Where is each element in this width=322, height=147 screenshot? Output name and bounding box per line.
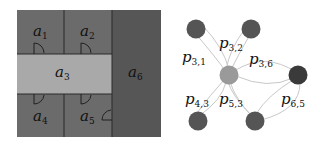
node-a6 — [289, 66, 308, 85]
label-p43: p4,3 — [185, 90, 209, 109]
label-p36: p3,6 — [249, 50, 273, 69]
node-a5 — [246, 112, 265, 131]
edge-3-6-alt — [236, 76, 293, 84]
label-p53: p5,3 — [219, 90, 243, 109]
label-p31: p3,1 — [182, 48, 206, 67]
node-a1 — [187, 20, 206, 39]
node-a3 — [220, 66, 239, 85]
diagram-canvas: a1 a2 a3 a4 a5 a6 p3,1 — [0, 0, 322, 147]
label-p65: p6,5 — [281, 90, 305, 109]
floor-plan: a1 a2 a3 a4 a5 a6 — [17, 10, 161, 137]
node-a4 — [189, 112, 208, 131]
adjacency-graph: p3,1 p3,2 p3,6 p4,3 p5,3 p6,5 — [182, 20, 308, 131]
node-a2 — [242, 20, 261, 39]
